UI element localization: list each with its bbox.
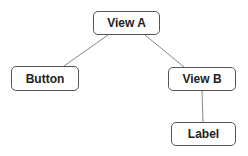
edge-view-b-label	[202, 91, 203, 122]
node-view-b: View B	[168, 67, 236, 91]
node-label: Label	[171, 122, 236, 146]
node-label: Button	[26, 72, 65, 86]
node-button: Button	[11, 66, 79, 91]
node-label: View A	[107, 16, 146, 30]
edge-view-a-view-b	[145, 35, 184, 67]
node-label: View B	[182, 72, 221, 86]
node-view-a: View A	[93, 11, 160, 35]
node-label: Label	[188, 127, 219, 141]
edge-view-a-button	[64, 35, 108, 66]
